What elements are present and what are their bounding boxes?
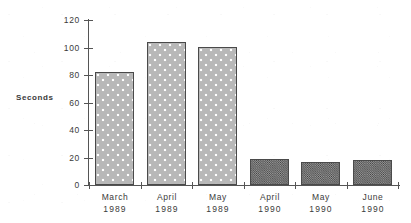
x-axis-label-month: March [89, 192, 141, 204]
x-tick [89, 182, 90, 189]
y-tick-label-wrap: 100 [52, 43, 80, 53]
x-tick [244, 182, 245, 189]
y-tick-label-wrap: 80 [52, 70, 80, 80]
x-axis-label-month: May [192, 192, 244, 204]
x-axis-label: April1989 [141, 192, 193, 215]
bar [147, 42, 186, 185]
x-axis-label-month: April [141, 192, 193, 204]
x-axis-label-year: 1989 [192, 204, 244, 216]
bar [301, 162, 340, 185]
y-tick-label: 120 [52, 15, 80, 25]
y-tick-label: 100 [52, 43, 80, 53]
bar-chart: Seconds 020406080100120 March1989April19… [0, 0, 411, 223]
bar [198, 47, 237, 185]
y-tick-60 [84, 103, 93, 104]
y-tick-label: 0 [52, 180, 80, 190]
x-axis-label: June1990 [347, 192, 399, 215]
y-tick-label-wrap: 120 [52, 15, 80, 25]
y-tick-label: 80 [52, 70, 80, 80]
bar [250, 159, 289, 185]
y-tick-label: 20 [52, 153, 80, 163]
x-axis-label-year: 1990 [347, 204, 399, 216]
x-axis-label-year: 1990 [295, 204, 347, 216]
x-axis-label-year: 1990 [244, 204, 296, 216]
y-tick-40 [84, 130, 93, 131]
y-tick-label-wrap: 60 [52, 98, 80, 108]
y-tick-80 [84, 75, 93, 76]
x-tick [347, 182, 348, 189]
x-tick [295, 182, 296, 189]
y-tick-20 [84, 158, 93, 159]
x-axis-label-year: 1989 [89, 204, 141, 216]
x-axis-label: March1989 [89, 192, 141, 215]
y-tick-100 [84, 48, 93, 49]
y-tick-120 [84, 20, 93, 21]
x-axis-label: May1989 [192, 192, 244, 215]
x-tick [398, 182, 399, 189]
y-tick-label-wrap: 40 [52, 125, 80, 135]
x-axis-label: April1990 [244, 192, 296, 215]
x-axis-label-year: 1989 [141, 204, 193, 216]
y-tick-label-wrap: 0 [52, 180, 80, 190]
x-axis-label: May1990 [295, 192, 347, 215]
bar [95, 72, 134, 185]
x-axis-label-month: May [295, 192, 347, 204]
x-axis-label-month: April [244, 192, 296, 204]
x-axis-label-month: June [347, 192, 399, 204]
x-tick [141, 182, 142, 189]
bar [353, 160, 392, 185]
x-tick [192, 182, 193, 189]
y-tick-label: 40 [52, 125, 80, 135]
y-tick-label-wrap: 20 [52, 153, 80, 163]
y-tick-label: 60 [52, 98, 80, 108]
